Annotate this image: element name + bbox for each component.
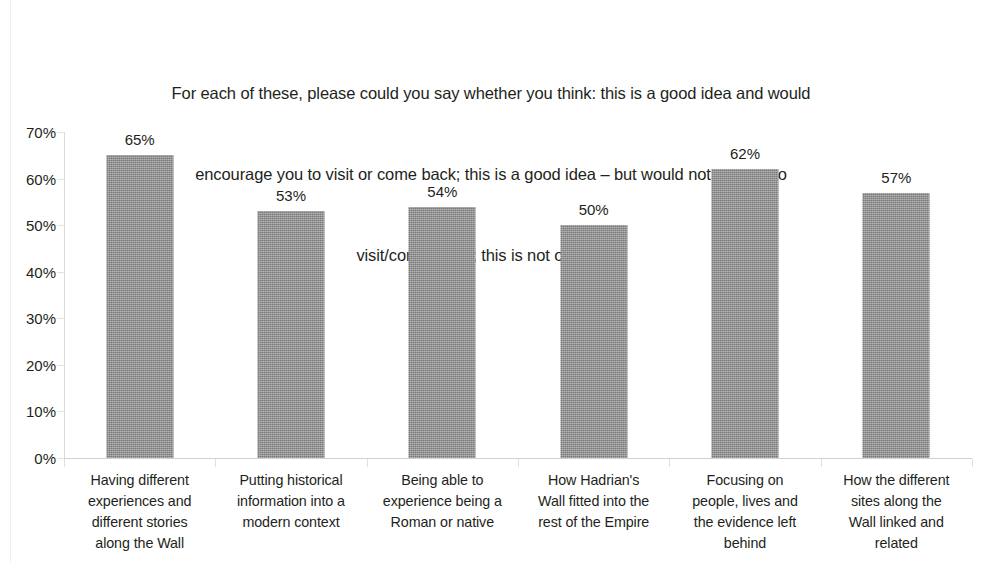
x-axis-category-label: Putting historicalinformation into amode… [215,470,366,533]
y-axis-tick-mark [57,411,64,412]
category-label-line: rest of the Empire [518,512,669,533]
category-label-line: experience being a [367,491,518,512]
category-label-line: Wall linked and [821,512,972,533]
chart-title-line-1: For each of these, please could you say … [96,80,886,107]
category-label-line: the evidence left [669,512,820,533]
x-axis-tick-mark [64,459,65,467]
x-axis-category-label: Having differentexperiences anddifferent… [64,470,215,554]
category-label-line: Focusing on [669,470,820,491]
bar[interactable] [711,169,778,458]
bar[interactable] [106,155,173,458]
category-label-line: related [821,533,972,554]
category-label-line: Putting historical [215,470,366,491]
y-axis-tick-mark [57,272,64,273]
bars-layer: 65%53%54%50%62%57% [64,132,972,458]
bar-value-label: 50% [518,202,669,217]
x-axis-category-label: How Hadrian'sWall fitted into therest of… [518,470,669,533]
category-label-line: people, lives and [669,491,820,512]
bar[interactable] [257,211,324,458]
bar-group[interactable]: 62% [669,132,820,458]
x-axis-tick-mark [215,459,216,467]
bar-group[interactable]: 54% [367,132,518,458]
y-axis-tick-mark [57,365,64,366]
y-axis-tick-label: 20% [4,358,56,373]
bar-chart: For each of these, please could you say … [0,0,982,562]
x-axis-category-label: Being able toexperience being aRoman or … [367,470,518,533]
bar-value-label: 57% [821,170,972,185]
y-axis-tick-label: 30% [4,311,56,326]
category-label-line: Roman or native [367,512,518,533]
category-label-line: information into a [215,491,366,512]
y-axis-tick-mark [57,179,64,180]
bar-value-label: 54% [367,184,518,199]
bar-group[interactable]: 57% [821,132,972,458]
category-label-line: different stories [64,512,215,533]
category-label-line: sites along the [821,491,972,512]
category-label-line: How Hadrian's [518,470,669,491]
x-axis-tick-mark [367,459,368,467]
category-label-line: experiences and [64,491,215,512]
y-axis-tick-label: 60% [4,172,56,187]
y-axis-tick-label: 40% [4,265,56,280]
bar-group[interactable]: 65% [64,132,215,458]
y-axis-labels: 70%60%50%40%30%20%10%0% [0,132,56,459]
x-axis-tick-mark [972,459,973,467]
y-axis-tick-label: 10% [4,404,56,419]
bar[interactable] [863,193,930,458]
y-axis-tick-label: 0% [4,451,56,466]
x-axis-tick-mark [669,459,670,467]
bar-value-label: 53% [215,188,366,203]
y-axis-tick-label: 50% [4,218,56,233]
y-axis-tick-mark [57,458,64,459]
category-label-line: Being able to [367,470,518,491]
category-label-line: Wall fitted into the [518,491,669,512]
bar-group[interactable]: 53% [215,132,366,458]
category-label-line: along the Wall [64,533,215,554]
y-axis-tick-mark [57,132,64,133]
y-axis-tick-mark [57,318,64,319]
bar-value-label: 65% [64,132,215,147]
bar[interactable] [409,207,476,458]
category-label-line: Having different [64,470,215,491]
category-label-line: modern context [215,512,366,533]
x-axis-tick-mark [518,459,519,467]
x-axis-category-labels: Having differentexperiences anddifferent… [64,470,972,558]
x-axis-category-label: Focusing onpeople, lives andthe evidence… [669,470,820,554]
x-axis-tick-mark [821,459,822,467]
category-label-line: behind [669,533,820,554]
x-axis-category-label: How the differentsites along theWall lin… [821,470,972,554]
y-axis-tick-label: 70% [4,125,56,140]
category-label-line: How the different [821,470,972,491]
y-axis-tick-mark [57,225,64,226]
bar[interactable] [560,225,627,458]
bar-value-label: 62% [669,146,820,161]
bar-group[interactable]: 50% [518,132,669,458]
